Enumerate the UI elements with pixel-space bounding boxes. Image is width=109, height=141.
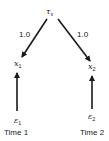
time-label-1: Time 1 xyxy=(4,129,28,137)
node-subscript: 2 xyxy=(92,116,95,122)
edge-label-right: 1.0 xyxy=(77,31,88,39)
node-subscript: 2 xyxy=(93,66,96,72)
node-latent-tau-x: τx xyxy=(46,8,53,18)
node-x2: x2 xyxy=(88,63,96,73)
edge-latent-to-x2 xyxy=(58,19,90,61)
time-label-2: Time 2 xyxy=(80,129,104,137)
node-x1: x1 xyxy=(14,60,22,70)
node-epsilon-2: ε2 xyxy=(88,113,95,123)
node-subscript: x xyxy=(50,11,53,17)
edge-label-left: 1.0 xyxy=(19,31,30,39)
node-subscript: 1 xyxy=(18,120,21,126)
node-epsilon-1: ε1 xyxy=(14,117,21,127)
node-subscript: 1 xyxy=(19,63,22,69)
